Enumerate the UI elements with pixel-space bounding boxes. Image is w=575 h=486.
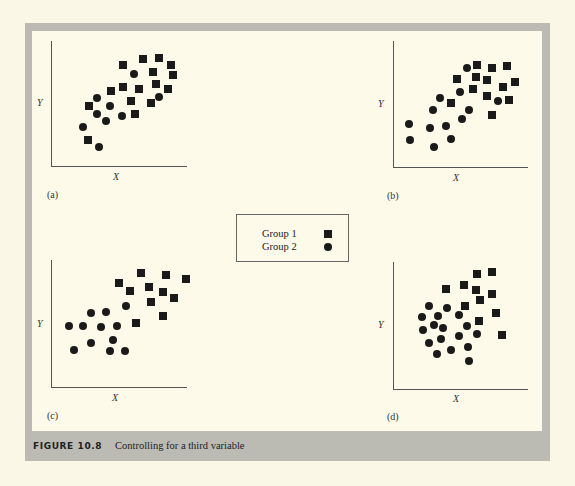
group-1-point — [476, 296, 484, 304]
group-2-point — [455, 311, 463, 319]
x-axis-line — [51, 387, 187, 388]
group-1-point — [503, 62, 511, 70]
group-1-point — [488, 111, 496, 119]
group-2-point — [93, 94, 101, 102]
group-2-point — [436, 94, 444, 102]
group-1-point — [84, 136, 92, 144]
group-1-point — [472, 73, 480, 81]
group-2-point — [439, 324, 447, 332]
x-axis-label: X — [453, 173, 459, 183]
group-2-point — [102, 117, 110, 125]
square-marker-icon — [324, 230, 332, 238]
group-1-point — [469, 85, 477, 93]
group-1-point — [115, 279, 123, 287]
group-2-point — [434, 312, 442, 320]
group-2-point — [465, 106, 473, 114]
y-axis-label: Y — [37, 319, 43, 329]
group-2-point — [465, 357, 473, 365]
group-1-point — [159, 288, 167, 296]
group-2-point — [79, 322, 87, 330]
group-1-point — [119, 83, 127, 91]
legend: Group 1 Group 2 — [236, 214, 349, 262]
y-axis-line — [51, 41, 52, 166]
group-1-point — [119, 61, 127, 69]
group-2-point — [433, 350, 441, 358]
group-2-point — [79, 123, 87, 131]
group-1-point — [473, 270, 481, 278]
group-2-point — [425, 339, 433, 347]
group-2-point — [122, 302, 130, 310]
group-1-point — [167, 61, 175, 69]
group-1-point — [460, 281, 468, 289]
group-2-point — [102, 308, 110, 316]
x-axis-label: X — [453, 394, 459, 404]
group-1-point — [475, 317, 483, 325]
group-2-point — [442, 122, 450, 130]
group-1-point — [85, 102, 93, 110]
y-axis-label: Y — [37, 98, 43, 108]
group-1-point — [492, 309, 500, 317]
legend-label-group-2: Group 2 — [262, 242, 297, 253]
group-1-point — [162, 271, 170, 279]
panel-label: (d) — [387, 412, 399, 422]
group-2-point — [155, 93, 163, 101]
group-2-point — [443, 304, 451, 312]
group-2-point — [447, 135, 455, 143]
group-1-point — [147, 99, 155, 107]
y-axis-line — [51, 260, 52, 387]
group-1-point — [472, 286, 480, 294]
group-1-point — [127, 97, 135, 105]
group-2-point — [118, 112, 126, 120]
group-1-point — [126, 287, 134, 295]
group-2-point — [429, 106, 437, 114]
group-1-point — [505, 96, 513, 104]
panel-label: (b) — [387, 191, 399, 201]
group-1-point — [132, 319, 140, 327]
group-1-point — [152, 80, 160, 88]
circle-marker-icon — [324, 243, 332, 251]
group-1-point — [442, 285, 450, 293]
group-1-point — [488, 268, 496, 276]
group-2-point — [106, 347, 114, 355]
x-axis-label: X — [113, 172, 119, 182]
group-1-point — [511, 78, 519, 86]
group-2-point — [97, 323, 105, 331]
group-1-point — [447, 99, 455, 107]
group-2-point — [458, 115, 466, 123]
group-1-point — [488, 64, 496, 72]
y-axis-line — [393, 262, 394, 389]
y-axis-label: Y — [378, 320, 384, 330]
panel-label: (a) — [47, 190, 58, 200]
group-2-point — [464, 343, 472, 351]
panel-label: (c) — [47, 411, 58, 421]
x-axis-line — [393, 389, 528, 390]
group-2-point — [113, 322, 121, 330]
group-1-point — [131, 110, 139, 118]
group-2-point — [447, 346, 455, 354]
y-axis-line — [393, 41, 394, 167]
group-1-point — [169, 71, 177, 79]
group-2-point — [93, 110, 101, 118]
group-2-point — [430, 143, 438, 151]
group-1-point — [182, 275, 190, 283]
group-1-point — [107, 87, 115, 95]
x-axis-line — [393, 167, 528, 168]
group-1-point — [137, 269, 145, 277]
group-2-point — [87, 339, 95, 347]
group-1-point — [135, 85, 143, 93]
x-axis-label: X — [112, 393, 118, 403]
group-2-point — [95, 143, 103, 151]
group-2-point — [121, 347, 129, 355]
group-1-point — [473, 61, 481, 69]
x-axis-line — [51, 166, 187, 167]
group-2-point — [130, 70, 138, 78]
group-2-point — [419, 326, 427, 334]
group-1-point — [453, 75, 461, 83]
group-1-point — [164, 85, 172, 93]
figure-caption: Controlling for a third variable — [115, 441, 244, 452]
group-1-point — [498, 331, 506, 339]
group-2-point — [437, 335, 445, 343]
group-2-point — [406, 136, 414, 144]
group-1-point — [170, 294, 178, 302]
group-1-point — [155, 54, 163, 62]
